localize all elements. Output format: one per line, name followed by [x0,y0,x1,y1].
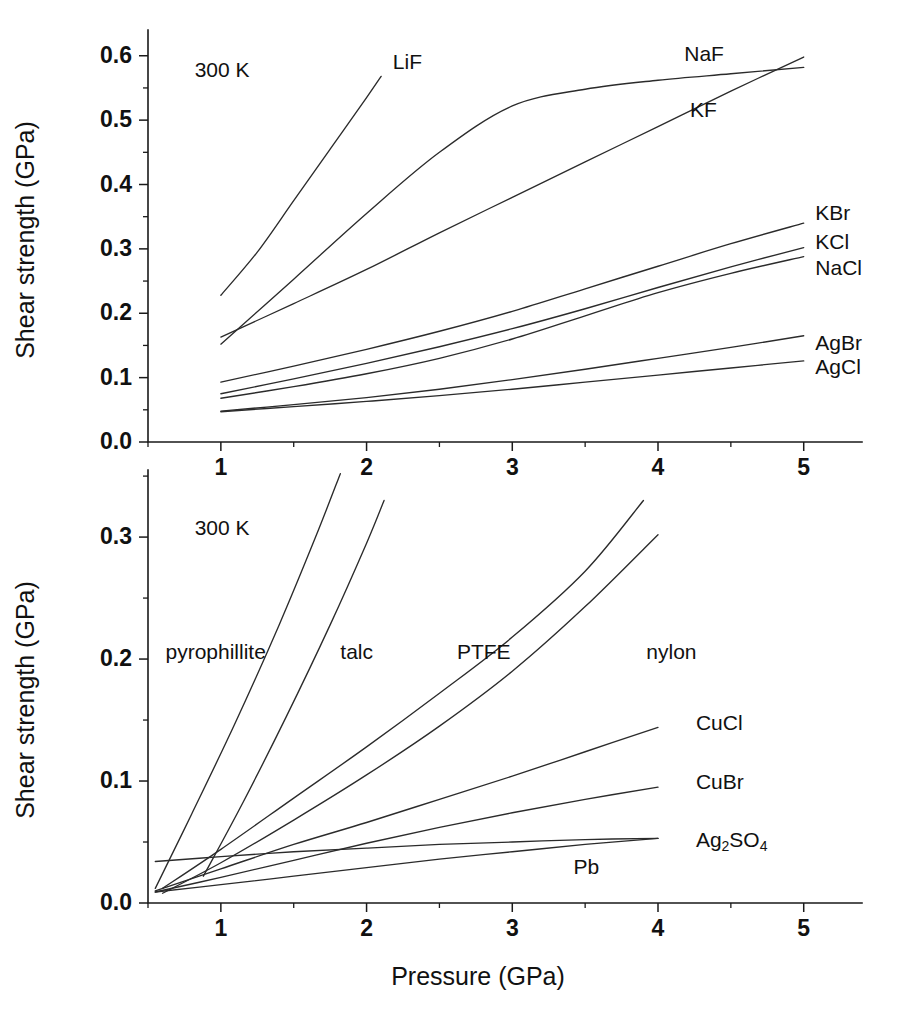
annotation-temperature: 300 K [195,516,250,539]
top-panel-series-labels: LiFNaFKFKBrKClNaClAgBrAgCl [393,42,862,378]
figure-container: 123450.00.10.20.30.40.50.6 LiFNaFKFKBrKC… [0,0,911,1009]
series-label-talc: talc [340,640,373,663]
top-y-tick-label: 0.2 [100,299,132,325]
bottom-x-tick-label: 2 [360,915,373,941]
bottom-panel: 123450.00.10.20.3 pyrophillitetalcPTFEny… [100,470,862,941]
bottom-panel-annotations: 300 K [195,516,250,539]
annotation-temperature: 300 K [195,58,250,81]
top-y-tick-label: 0.3 [100,235,132,261]
series-label-AgBr: AgBr [815,331,862,354]
series-label-LiF: LiF [393,50,422,73]
curve-NaCl [221,257,804,399]
top-panel: 123450.00.10.20.30.40.50.6 LiFNaFKFKBrKC… [100,30,862,480]
top-x-tick-label: 1 [214,454,227,480]
curve-KBr [221,223,804,382]
series-label-NaF: NaF [684,42,724,65]
curve-KCl [221,248,804,394]
series-label-AgCl: AgCl [815,355,861,378]
top-x-tick-label: 2 [360,454,373,480]
shear-strength-pressure-figure: 123450.00.10.20.30.40.50.6 LiFNaFKFKBrKC… [0,0,911,1009]
series-label-PTFE: PTFE [457,640,511,663]
top-y-tick-label: 0.4 [100,171,132,197]
series-label-CuCl: CuCl [696,711,743,734]
series-label-NaCl: NaCl [815,256,862,279]
top-x-tick-label: 3 [506,454,519,480]
top-x-tick-label: 5 [797,454,810,480]
bottom-y-tick-label: 0.1 [100,767,132,793]
top-y-tick-label: 0.1 [100,364,132,390]
curve-PTFE [163,500,644,888]
x-axis-title: Pressure (GPa) [391,962,565,990]
bottom-x-tick-label: 5 [797,915,810,941]
top-y-tick-label: 0.5 [100,106,132,132]
bottom-x-tick-label: 3 [506,915,519,941]
bottom-x-tick-label: 1 [214,915,227,941]
curve-AgBr [221,336,804,411]
series-label-KCl: KCl [815,230,849,253]
bottom-y-tick-label: 0.0 [100,889,132,915]
top-y-tick-label: 0.6 [100,42,132,68]
bottom-y-tick-label: 0.2 [100,645,132,671]
series-label-KF: KF [690,98,717,121]
top-y-tick-label: 0.0 [100,428,132,454]
series-label-CuBr: CuBr [696,770,744,793]
y-axis-title-top: Shear strength (GPa) [11,121,39,359]
series-label-KBr: KBr [815,201,850,224]
curve-LiF [221,76,381,295]
bottom-x-tick-label: 4 [652,915,665,941]
series-label-pyrophillite: pyrophillite [165,640,265,663]
curve-AgCl [221,361,804,412]
y-axis-title-bottom: Shear strength (GPa) [11,581,39,819]
top-x-tick-label: 4 [652,454,665,480]
top-panel-annotations: 300 K [195,58,250,81]
series-label-nylon: nylon [646,640,696,663]
series-label-Ag2SO4: Ag2SO4 [696,827,768,853]
bottom-y-tick-label: 0.3 [100,523,132,549]
series-label-Pb: Pb [573,855,599,878]
